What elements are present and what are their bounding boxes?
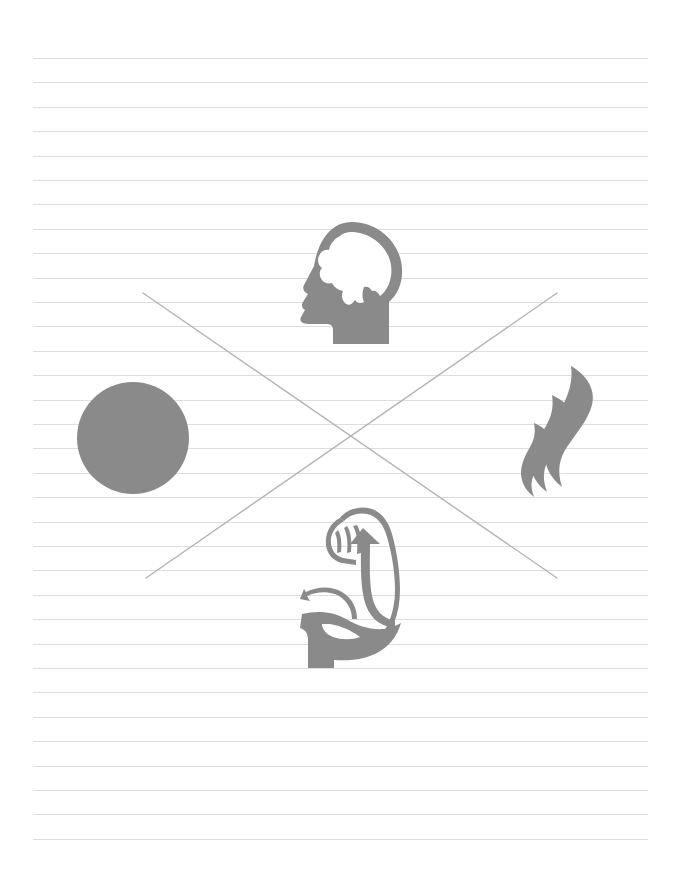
dollar-coin-icon — [76, 381, 190, 495]
flame-icon — [521, 365, 609, 503]
flexed-bicep-icon — [300, 506, 404, 668]
head-brain-icon — [288, 220, 408, 344]
notebook-page — [0, 0, 679, 880]
icon-layer — [0, 0, 679, 880]
